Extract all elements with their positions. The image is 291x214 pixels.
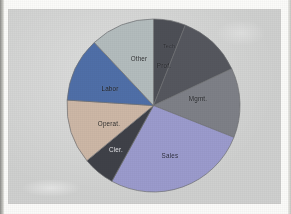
chart-panel: TechProf.Mgmt.SalesCler.Operat.LaborOthe… [9, 10, 280, 203]
scan-right-edge-artifact [288, 0, 291, 214]
pie-slice-label: Other [131, 55, 148, 62]
pie-chart: TechProf.Mgmt.SalesCler.Operat.LaborOthe… [66, 18, 241, 193]
pie-slice-label: Operat. [98, 120, 120, 127]
scanned-page: TechProf.Mgmt.SalesCler.Operat.LaborOthe… [0, 0, 291, 214]
pie-slice-label: Labor [101, 85, 118, 92]
pie-slice-label: Mgmt. [189, 95, 208, 102]
pie-chart-svg [66, 18, 241, 193]
pie-slice-label: Tech [163, 43, 175, 49]
scan-left-edge-artifact [0, 0, 4, 214]
pie-slice-label: Cler. [109, 146, 123, 153]
pie-slice-label: Prof. [157, 62, 171, 69]
pie-slice-label: Sales [162, 152, 179, 159]
